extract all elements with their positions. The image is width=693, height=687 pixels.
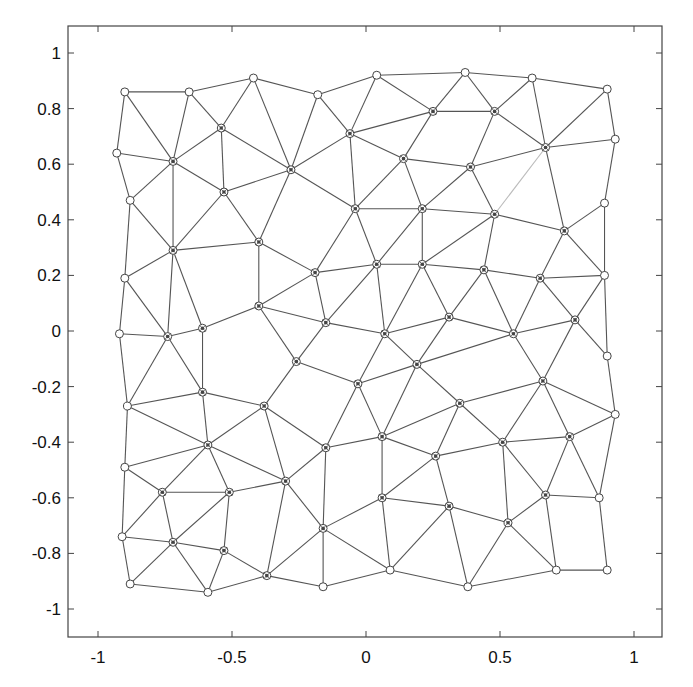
interior-node [373,260,381,268]
boundary-node [373,71,381,79]
mesh-edge [173,92,189,162]
mesh-edge [318,95,350,134]
caption-superscript: 2 [528,676,533,684]
mesh-edge [173,192,224,250]
mesh-edge [122,467,125,536]
interior-node [560,227,568,235]
mesh-edge [564,231,604,275]
interior-node [504,519,512,527]
y-tick-label: 0 [52,322,61,341]
mesh-edge [350,111,433,133]
y-tick-label: -1 [46,600,61,619]
mesh-edge [495,78,533,111]
mesh-edge [355,159,403,209]
mesh-edge [286,448,326,481]
y-tick-label: 0.8 [37,100,61,119]
mesh-edge [350,134,404,159]
mesh-nodes [113,68,619,596]
mesh-edge [323,528,390,570]
boundary-node [126,196,134,204]
mesh-edge [543,381,615,414]
mesh-edge [119,278,124,334]
interior-node [260,402,268,410]
interior-node [263,572,271,580]
mesh-edge [546,437,570,495]
interior-node [199,388,207,396]
mesh-edge [436,403,460,456]
boundary-node [113,149,121,157]
x-tick-label: 1 [629,648,638,667]
mesh-edge [323,570,390,587]
mesh-edge [122,537,173,543]
interior-node [456,399,464,407]
interior-node [413,360,421,368]
interior-node [158,488,166,496]
mesh-edge [264,362,296,406]
mesh-edge [540,231,564,278]
boundary-node [611,410,619,418]
mesh-edge [540,278,575,320]
mesh-edge [130,542,173,584]
mesh-edge [543,381,570,437]
mesh-edges [117,72,615,592]
boundary-node [314,91,322,99]
mesh-edge [404,159,423,209]
mesh-edge [326,323,385,334]
mesh-edge [318,75,377,94]
mesh-edge [125,92,173,162]
mesh-edge [508,495,546,523]
x-tick-label: 0.5 [488,648,512,667]
mesh-edge [607,89,615,139]
mesh-edge [382,364,417,436]
mesh-edge [221,128,291,170]
interior-node [220,188,228,196]
mesh-edge [173,542,224,550]
boundary-node [603,85,611,93]
mesh-edge [296,323,325,362]
mesh-edge [404,159,471,167]
mesh-edge [208,551,224,593]
interior-node [292,358,300,366]
mesh-edge [433,72,465,111]
mesh-edge [385,334,417,365]
interior-node [346,130,354,138]
boundary-node [603,352,611,360]
mesh-edge [125,467,163,492]
interior-node [467,163,475,171]
interior-node [164,333,172,341]
interior-node [199,324,207,332]
interior-node [536,274,544,282]
mesh-edge [127,337,167,407]
mesh-edge [385,264,423,334]
boundary-node [611,135,619,143]
boundary-node [601,199,609,207]
x-axis-tick-labels: -1-0.500.51 [90,648,638,667]
interior-node [255,238,263,246]
mesh-edge [546,148,565,231]
boundary-node [552,566,560,574]
mesh-edge [291,134,350,170]
mesh-edge [513,278,540,334]
mesh-edge [532,78,545,148]
mesh-edge [253,78,317,95]
mesh-edge [189,92,221,128]
mesh-edge [264,406,326,448]
interior-node [204,441,212,449]
mesh-edge [127,392,202,406]
mesh-edge [422,264,449,317]
mesh-edge [267,576,323,587]
mesh-edge [484,214,495,270]
mesh-edge [449,506,508,523]
mesh-edge [315,264,377,272]
mesh-edge [468,570,556,587]
mesh-edge [296,362,358,384]
interior-node [571,316,579,324]
mesh-edge [286,481,324,528]
mesh-edge [382,498,390,570]
interior-node [418,205,426,213]
mesh-edge [253,78,291,170]
mesh-edge [382,403,460,436]
interior-node [282,477,290,485]
mesh-edge [503,442,546,495]
mesh-edge [390,506,449,570]
